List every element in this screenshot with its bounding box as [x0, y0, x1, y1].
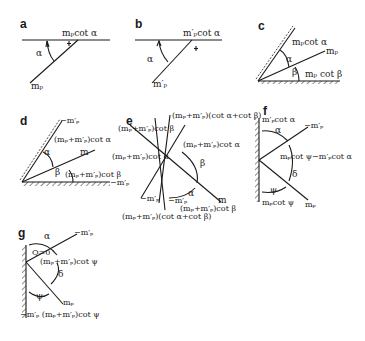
panel-a-lines	[22, 40, 110, 83]
g-mid-moment: (mₚ+m′ₚ)cot ψ	[40, 257, 98, 266]
yield-line-diagram-figure: a b c d e f g mₚcot α α mₚ m′ₚcot α α m′…	[0, 0, 365, 341]
g-delta: δ	[58, 270, 63, 279]
g-alpha: α	[44, 232, 50, 241]
e-left-mid-moment: (mₚ+m′ₚ)cot α	[112, 152, 169, 161]
g-moment: mₚ	[63, 298, 74, 307]
panel-label-d: d	[20, 115, 27, 127]
f-mid-moment: mₚcot ψ−m′ₚcot α	[280, 152, 352, 161]
e-neg-moment-1: −m′ₚ	[140, 194, 159, 203]
c-lower-moment: mₚ cot β	[305, 70, 342, 79]
d-top-moment: −m′ₚ	[60, 116, 79, 125]
g-neg-moment: −m′ₚ	[74, 228, 93, 237]
a-moment: mₚ	[31, 82, 43, 91]
e-beta: β	[200, 159, 205, 168]
f-top-moment: m′ₚcot α	[262, 115, 295, 124]
e-left-top-moment: (mₚ+m′ₚ)cot β	[118, 124, 174, 133]
e-alpha: α	[188, 189, 194, 198]
g-psi: ψ	[36, 292, 43, 301]
panel-label-g: g	[18, 227, 25, 239]
c-moment: mₚ	[326, 47, 338, 56]
f-bottom-moment: mₚcot ψ	[262, 198, 294, 207]
g-bottom-moment: −m′ₚ (mₚ+m′ₚ)cot ψ	[20, 310, 100, 319]
e-bottom-moment: (mₚ+m′ₚ)(cot α+cot β)	[122, 212, 211, 221]
d-upper-moment: (mₚ+m′ₚ)cot α	[54, 135, 111, 144]
d-beta: β	[55, 168, 60, 177]
a-alpha: α	[36, 49, 42, 58]
a-top-moment: mₚcot α	[62, 29, 97, 38]
c-beta: β	[292, 68, 297, 77]
c-alpha: α	[286, 55, 292, 64]
b-alpha: α	[147, 55, 153, 64]
panel-label-b: b	[135, 18, 142, 30]
g-shear: Q=0	[32, 248, 50, 257]
b-moment: m′ₚ	[153, 80, 167, 89]
c-upper-moment: mₚcot α	[292, 38, 327, 47]
d-alpha: α	[44, 148, 50, 157]
panel-label-c: c	[258, 20, 265, 32]
f-delta: δ	[292, 170, 297, 179]
b-top-moment: m′ₚcot α	[183, 29, 220, 38]
f-neg-moment: −m′ₚ	[304, 121, 323, 130]
e-top-moment: (mₚ+m′ₚ)(cot α+cot β)	[172, 111, 261, 120]
panel-label-a: a	[20, 18, 27, 30]
d-m: m	[80, 148, 89, 157]
f-moment: mₚ	[305, 200, 316, 209]
f-psi: ψ	[270, 186, 277, 195]
d-right-moment: −m′ₚ	[110, 178, 129, 187]
f-alpha: α	[275, 126, 281, 135]
e-right-mid-moment: (mₚ+m′ₚ)cot α	[183, 140, 240, 149]
